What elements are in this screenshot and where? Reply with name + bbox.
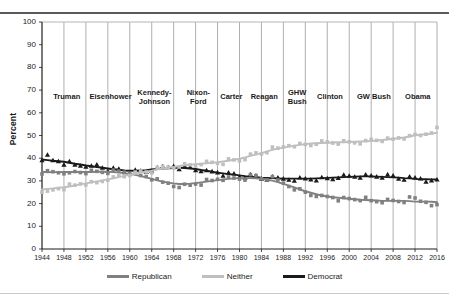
legend-swatch: [202, 275, 224, 278]
y-tick-label: 80: [14, 62, 36, 71]
era-label-line2: Johnson: [139, 97, 170, 106]
legend-swatch: [283, 275, 305, 278]
era-label-line1: Obama: [405, 92, 430, 101]
footer-divider: [0, 293, 449, 294]
legend-item[interactable]: Neither: [202, 272, 253, 281]
era-label-line1: Truman: [53, 92, 80, 101]
era-label-line1: Eisenhower: [90, 92, 132, 101]
legend-item[interactable]: Republican: [107, 272, 172, 281]
y-tick-label: 10: [14, 221, 36, 230]
era-label: Obama: [390, 93, 446, 102]
era-label-line1: GW Bush: [357, 92, 391, 101]
y-tick-label: 100: [14, 17, 36, 26]
chart-figure: Percent 0102030405060708090100 194419481…: [0, 0, 449, 296]
legend-label: Republican: [132, 272, 172, 281]
y-tick-label: 40: [14, 153, 36, 162]
legend-label: Neither: [227, 272, 253, 281]
legend-label: Democrat: [308, 272, 343, 281]
legend-swatch: [107, 275, 129, 278]
y-tick-label: 70: [14, 85, 36, 94]
chart-legend: RepublicanNeitherDemocrat: [0, 272, 449, 281]
legend-item[interactable]: Democrat: [283, 272, 343, 281]
y-tick-label: 60: [14, 108, 36, 117]
y-tick-label: 50: [14, 131, 36, 140]
x-tick-label: 2016: [422, 254, 449, 261]
era-label-line1: Clinton: [317, 92, 343, 101]
plot-area: [0, 0, 449, 296]
y-tick-label: 30: [14, 176, 36, 185]
y-tick-label: 90: [14, 40, 36, 49]
y-tick-label: 20: [14, 199, 36, 208]
y-tick-label: 0: [14, 244, 36, 253]
